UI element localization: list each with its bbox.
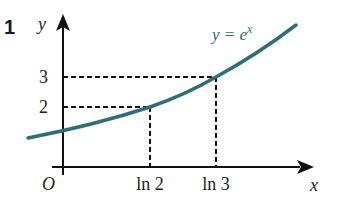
- exponential-graph: 1 y x O 3 2 ln 2 ln 3 y = ex: [0, 0, 339, 198]
- y-tick-2: 2: [39, 97, 48, 117]
- x-tick-ln3: ln 3: [202, 174, 230, 194]
- curve-label-exponent: x: [246, 22, 253, 36]
- curve-label-main: y = e: [210, 25, 248, 44]
- x-tick-ln2: ln 2: [136, 174, 164, 194]
- question-number: 1: [4, 16, 15, 38]
- exp-curve: [28, 25, 296, 138]
- curve-label: y = ex: [210, 22, 253, 44]
- y-tick-3: 3: [39, 67, 48, 87]
- x-axis-label: x: [309, 175, 318, 195]
- origin-label: O: [42, 174, 55, 194]
- y-axis-label: y: [36, 14, 46, 34]
